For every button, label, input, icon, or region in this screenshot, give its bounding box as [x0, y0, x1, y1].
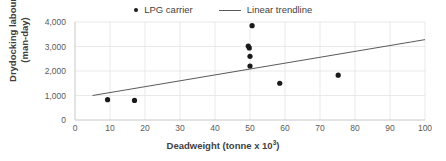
data-point — [247, 54, 252, 59]
legend-item-linear-trendline: Linear trendline — [219, 5, 313, 15]
y-axis-title-line-2: (man-day) — [19, 17, 31, 62]
y-tick-label: 0 — [61, 116, 66, 125]
data-point — [132, 98, 137, 103]
chart-container: LPG carrier Linear trendline Drydocking … — [0, 0, 446, 161]
x-tick-label: 100 — [418, 124, 432, 133]
legend-label-lpg-carrier: LPG carrier — [144, 5, 193, 15]
y-tick-label: 2,000 — [45, 67, 66, 76]
x-axis-title-text: Deadweight (tonne x 10 — [167, 140, 273, 151]
x-tick-label: 0 — [73, 124, 78, 133]
x-axis-title: Deadweight (tonne x 103) — [0, 140, 446, 151]
y-axis-title-line-1: Drydocking labour — [7, 0, 19, 82]
x-axis-tick-labels: 0102030405060708090100 — [0, 124, 446, 138]
trendline — [93, 40, 426, 96]
y-tick-label: 4,000 — [45, 18, 66, 27]
legend-item-lpg-carrier: LPG carrier — [134, 5, 193, 15]
data-point — [247, 64, 252, 69]
x-tick-label: 10 — [105, 124, 114, 133]
x-tick-label: 30 — [175, 124, 184, 133]
data-point — [247, 45, 252, 50]
x-tick-label: 90 — [385, 124, 394, 133]
x-tick-label: 60 — [280, 124, 289, 133]
plot-canvas — [75, 22, 425, 120]
y-tick-label: 3,000 — [45, 42, 66, 51]
x-tick-label: 50 — [245, 124, 254, 133]
x-tick-label: 40 — [210, 124, 219, 133]
legend-line-marker-icon — [219, 10, 241, 11]
x-tick-label: 70 — [315, 124, 324, 133]
legend-dot-marker-icon — [134, 8, 139, 13]
y-tick-label: 1,000 — [45, 91, 66, 100]
data-point — [105, 97, 110, 102]
data-point — [250, 23, 255, 28]
legend-label-linear-trendline: Linear trendline — [247, 5, 313, 15]
data-point — [336, 73, 341, 78]
x-tick-label: 20 — [140, 124, 149, 133]
y-axis-title: Drydocking labour (man-day) — [3, 0, 35, 95]
x-axis-title-tail: ) — [276, 140, 279, 151]
x-tick-label: 80 — [350, 124, 359, 133]
plot-area — [75, 22, 425, 120]
data-point — [277, 81, 282, 86]
